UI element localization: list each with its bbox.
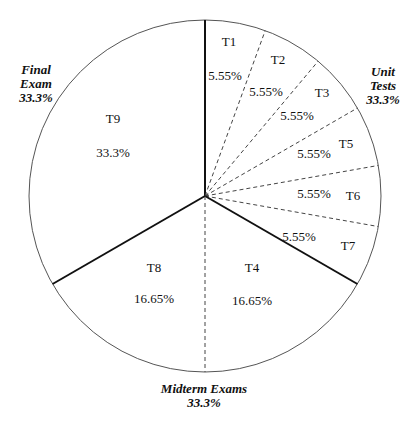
- slice-percent-label: 16.65%: [134, 291, 174, 306]
- group-label: Unit: [371, 64, 395, 79]
- group-label: 33.3%: [186, 395, 221, 410]
- group-label: 33.3%: [18, 90, 53, 105]
- slice-percent-label: 16.65%: [232, 293, 272, 308]
- group-label: Tests: [370, 78, 396, 93]
- slice-name-label: T6: [346, 188, 361, 203]
- group-label: 33.3%: [365, 92, 400, 107]
- group-label: Midterm Exams: [160, 381, 247, 396]
- slice-percent-label: 5.55%: [249, 84, 283, 99]
- slice-percent-label: 33.3%: [96, 145, 130, 160]
- slice-name-label: T8: [147, 260, 161, 275]
- slice-name-label: T7: [341, 238, 356, 253]
- slice-name-label: T5: [339, 136, 353, 151]
- slice-percent-label: 5.55%: [208, 68, 242, 83]
- slice-name-label: T9: [106, 111, 120, 126]
- slice-name-label: T3: [315, 85, 329, 100]
- slice-name-label: T1: [222, 34, 236, 49]
- group-label: Final: [20, 62, 51, 77]
- slice-name-label: T2: [271, 52, 285, 67]
- slice-percent-label: 5.55%: [297, 186, 331, 201]
- slice-percent-label: 5.55%: [297, 146, 331, 161]
- slice-percent-label: 5.55%: [280, 108, 314, 123]
- slice-name-label: T4: [245, 260, 260, 275]
- slice-percent-label: 5.55%: [282, 229, 316, 244]
- group-label: Exam: [19, 76, 52, 91]
- pie-chart: T15.55%T25.55%T35.55%T55.55%T65.55%T75.5…: [0, 0, 414, 423]
